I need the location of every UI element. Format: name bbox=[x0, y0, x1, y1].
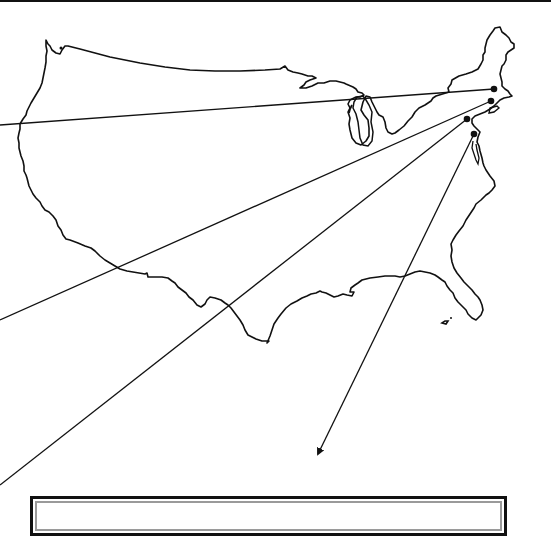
caption-box-inner-border bbox=[35, 501, 502, 531]
marker-dot-1[interactable] bbox=[491, 86, 498, 93]
us-outline-path bbox=[18, 27, 514, 343]
marker-dot-small-puget-sound bbox=[60, 47, 63, 50]
marker-dot-2[interactable] bbox=[488, 98, 495, 105]
marker-dot-3[interactable] bbox=[464, 116, 471, 123]
leader-line-3 bbox=[0, 119, 467, 485]
marker-dot-4[interactable] bbox=[471, 131, 478, 138]
caption-box bbox=[30, 496, 507, 536]
florida-keys-path bbox=[442, 318, 452, 324]
leader-line-2 bbox=[0, 101, 491, 320]
